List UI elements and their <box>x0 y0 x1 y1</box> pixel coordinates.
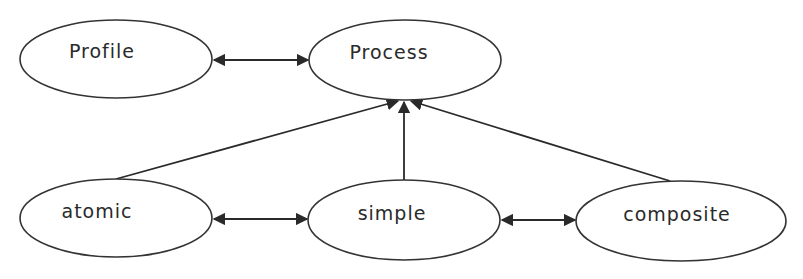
edge-composite-to-process <box>411 101 670 181</box>
node-label-simple: simple <box>358 202 427 224</box>
node-atomic: atomic <box>20 179 212 257</box>
process-model-diagram: Profile Process atomic simple composite <box>0 0 803 279</box>
edge-atomic-to-process <box>116 101 398 179</box>
node-process: Process <box>309 20 501 100</box>
node-label-process: Process <box>349 41 428 63</box>
node-label-composite: composite <box>623 203 731 225</box>
node-profile: Profile <box>20 20 212 98</box>
node-label-profile: Profile <box>69 40 135 62</box>
node-composite: composite <box>576 181 786 261</box>
node-label-atomic: atomic <box>62 200 133 222</box>
node-simple: simple <box>308 180 500 260</box>
